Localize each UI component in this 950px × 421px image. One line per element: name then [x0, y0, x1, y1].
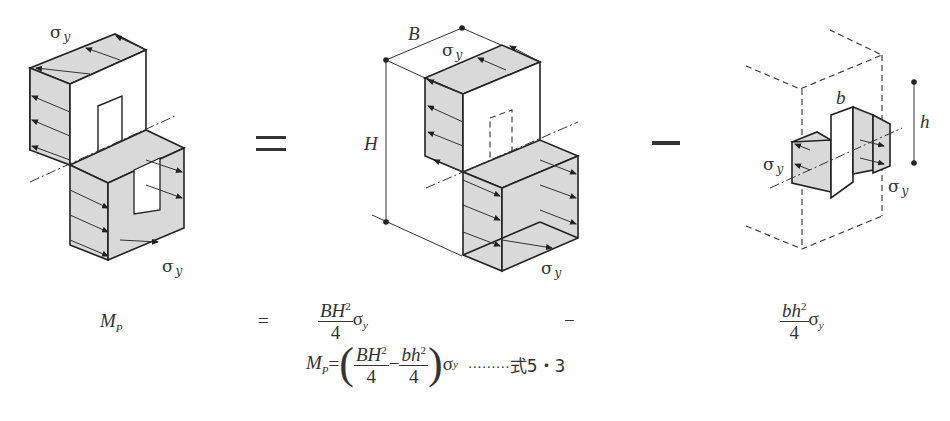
hole-left-face: [792, 140, 831, 192]
caption-equals: =: [258, 310, 269, 332]
figure-hole-block: h b σy σy: [746, 30, 930, 249]
equals-operator: [256, 136, 286, 151]
sigma-y-label-bottom: σy: [541, 258, 562, 280]
ghost-outline-top: [746, 30, 882, 89]
sigma-y-label-top: σy: [442, 40, 463, 62]
equation-number: 式5・3: [510, 352, 566, 377]
caption-mp: MP: [100, 310, 123, 334]
lower-left-face: [463, 172, 502, 271]
figure-outer-block: B H σy σy: [363, 23, 578, 280]
ghost-outline-bottom: [746, 216, 882, 249]
fraction-bh: bh24: [399, 340, 428, 388]
dimension-dot: [911, 79, 917, 85]
sigma-y-label-bottom: σy: [162, 256, 183, 278]
dimension-dot: [383, 219, 389, 225]
formula-lhs: MP: [306, 352, 329, 376]
label-H: H: [363, 133, 379, 154]
label-b: b: [836, 87, 846, 108]
caption-minus: −: [564, 310, 575, 332]
figure-plastic-moment: σy σy: [30, 22, 184, 278]
sigma-y-label-right: σy: [888, 176, 909, 198]
upper-left-face: [30, 68, 70, 165]
formula-5-3: MP = ( BH24 − bh24 ) σy ……… 式5・3: [306, 340, 565, 388]
leader-dots: ………: [468, 356, 510, 372]
fraction-BH: BH24: [354, 340, 389, 388]
label-B: B: [408, 23, 420, 44]
left-paren: (: [339, 342, 354, 386]
sigma-y-label-top: σy: [50, 22, 71, 44]
formula-minus: −: [389, 353, 400, 375]
minus-operator: [652, 141, 680, 145]
formula-equals: =: [329, 353, 340, 375]
caption-middle-term: BH24σy: [318, 296, 368, 344]
caption-right-term: bh24σy: [780, 296, 824, 344]
right-paren: ): [428, 342, 443, 386]
hole-center-face: [831, 107, 853, 198]
dimension-dot: [911, 160, 917, 166]
sigma-y-label-left: σy: [763, 154, 784, 176]
dimension-ext-H-top: [386, 60, 425, 78]
formula-sigma: σ: [443, 353, 453, 375]
label-h: h: [920, 111, 930, 132]
dimension-dot: [459, 25, 465, 31]
